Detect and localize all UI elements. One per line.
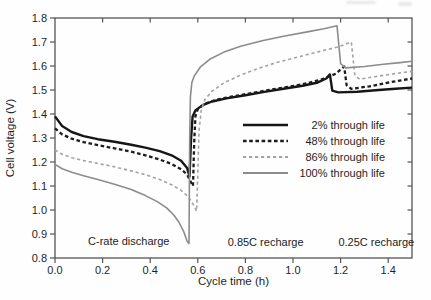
y-tick-label: 1.7 [32,36,47,48]
legend-label-2: 86% through life [306,151,386,163]
legend-label-1: 48% through life [306,135,386,147]
annotation-c-rate-discharge: C-rate discharge [88,235,169,247]
legend-label-3: 100% through life [299,167,385,179]
y-tick-label: 1.6 [32,60,47,72]
y-tick-label: 1.3 [32,132,47,144]
chart-plot-area: 0.00.20.40.60.81.01.21.40.80.91.01.11.21… [0,0,431,300]
y-tick-label: 1.5 [32,84,47,96]
y-tick-label: 1.2 [32,156,47,168]
y-tick-label: 1.0 [32,204,47,216]
y-tick-label: 1.1 [32,180,47,192]
legend-label-0: 2% through life [312,119,385,131]
annotation-025c-recharge: 0.25C recharge [338,236,414,248]
y-tick-label: 0.9 [32,228,47,240]
y-axis-title: Cell voltage (V) [4,99,16,178]
battery-cycle-voltage-chart: 0.00.20.40.60.81.01.21.40.80.91.01.11.21… [0,0,431,300]
y-tick-label: 0.8 [32,252,47,264]
y-tick-label: 1.4 [32,108,47,120]
annotation-085c-recharge: 0.85C recharge [228,236,304,248]
x-axis-title: Cycle time (h) [55,275,412,287]
y-tick-label: 1.8 [32,12,47,24]
